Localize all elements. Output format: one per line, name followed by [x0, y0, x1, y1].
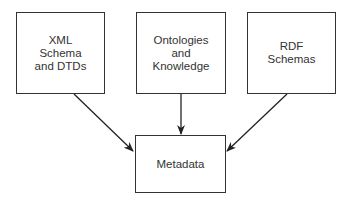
box-ontologies: Ontologies and Knowledge	[136, 12, 226, 94]
box-label-line: and DTDs	[35, 60, 87, 73]
box-label-line: RDF	[268, 40, 316, 53]
box-metadata: Metadata	[135, 135, 226, 193]
arrow-xml-to-metadata	[74, 94, 133, 151]
box-label-line: and	[153, 47, 210, 60]
box-label-line: Schemas	[268, 53, 316, 66]
box-xml-schema: XML Schema and DTDs	[16, 12, 105, 94]
box-label-line: Ontologies	[153, 34, 210, 47]
arrow-rdf-to-metadata	[227, 94, 287, 151]
box-label-line: Schema	[35, 47, 87, 60]
box-label-line: XML	[35, 34, 87, 47]
box-rdf-schemas: RDF Schemas	[247, 12, 336, 94]
box-label-line: Knowledge	[153, 60, 210, 73]
metadata-label: Metadata	[157, 158, 205, 171]
